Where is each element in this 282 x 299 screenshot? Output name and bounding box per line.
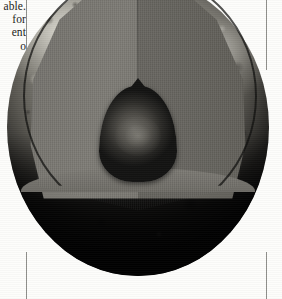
scanned-page: able. for ent o — [0, 0, 282, 299]
planet-cutaway-figure — [7, 0, 269, 278]
